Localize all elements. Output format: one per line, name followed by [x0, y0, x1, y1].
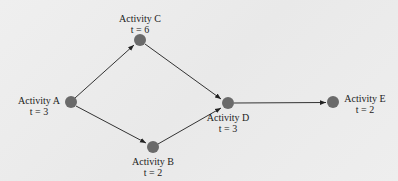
edge-a-c — [75, 45, 134, 98]
label-activity-a: Activity A t = 3 — [14, 95, 64, 117]
activity-d-name: Activity D — [203, 112, 253, 123]
node-d — [222, 97, 234, 109]
edge-c-d — [145, 44, 221, 99]
edge-a-b — [76, 106, 146, 143]
label-activity-b: Activity B t = 2 — [128, 156, 178, 178]
label-activity-e: Activity E t = 2 — [340, 93, 390, 115]
label-activity-c: Activity C t = 6 — [115, 13, 165, 35]
activity-c-name: Activity C — [115, 13, 165, 24]
node-b — [147, 141, 159, 153]
activity-b-name: Activity B — [128, 156, 178, 167]
activity-d-time: t = 3 — [203, 123, 253, 134]
node-c — [134, 34, 146, 46]
node-e — [327, 96, 339, 108]
activity-b-time: t = 2 — [128, 167, 178, 178]
activity-c-time: t = 6 — [115, 24, 165, 35]
node-a — [65, 96, 77, 108]
activity-e-name: Activity E — [340, 93, 390, 104]
edge-d-e — [234, 103, 326, 104]
diagram-graphics — [0, 0, 398, 181]
activity-network-diagram: Activity A t = 3 Activity C t = 6 Activi… — [0, 0, 398, 181]
activity-e-time: t = 2 — [340, 104, 390, 115]
label-activity-d: Activity D t = 3 — [203, 112, 253, 134]
activity-a-name: Activity A — [14, 95, 64, 106]
activity-a-time: t = 3 — [14, 106, 64, 117]
